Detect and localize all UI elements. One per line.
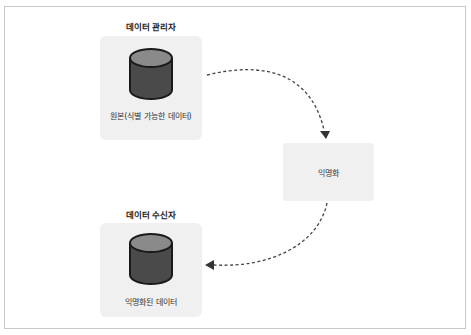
arrowhead-down-icon [320,131,330,139]
flow-arrows [0,0,471,335]
arrow-source-to-process [207,70,324,130]
arrowhead-left-icon [205,260,214,270]
arrow-process-to-target [214,203,327,265]
